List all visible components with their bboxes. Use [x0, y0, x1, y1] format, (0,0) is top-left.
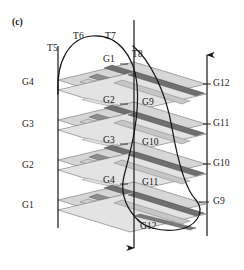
- label-g2-center: G2: [103, 96, 115, 106]
- label-g4-center: G4: [103, 176, 115, 186]
- label-g3-left: G3: [22, 120, 34, 130]
- label-g2-left: G2: [22, 161, 34, 171]
- label-g11-right: G11: [213, 119, 229, 129]
- label-g1-center: G1: [103, 55, 115, 65]
- label-t6: T6: [73, 32, 84, 42]
- grating-layer-1: [58, 182, 206, 232]
- diagram-svg: [0, 0, 244, 270]
- label-g10-center: G10: [142, 138, 159, 148]
- label-t8: T8: [132, 50, 143, 60]
- label-g11-center: G11: [142, 178, 158, 188]
- panel-label: (c): [12, 18, 23, 28]
- label-t7: T7: [105, 32, 116, 42]
- label-g4-left: G4: [22, 78, 34, 88]
- label-t5: T5: [47, 44, 58, 54]
- label-g9-right: G9: [213, 197, 225, 207]
- label-g1-left: G1: [22, 201, 34, 211]
- label-g12-center: G12: [140, 222, 157, 232]
- label-g10-right: G10: [213, 159, 230, 169]
- label-g3-center: G3: [103, 136, 115, 146]
- label-g12-right: G12: [213, 79, 230, 89]
- label-g9-center: G9: [142, 98, 154, 108]
- figure-canvas: (c) T5 T6 T7 T8 G4 G3 G2 G1 G12 G11 G10 …: [0, 0, 244, 270]
